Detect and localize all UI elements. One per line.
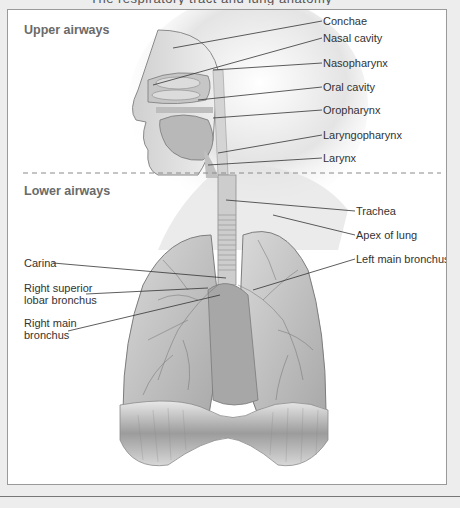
respiratory-illustration — [8, 10, 447, 485]
label-right-superior-lobar-bronchus-line1: Right superior — [24, 282, 92, 294]
label-larynx: Larynx — [323, 152, 356, 164]
label-nasal-cavity: Nasal cavity — [323, 32, 382, 44]
label-apex-of-lung: Apex of lung — [356, 229, 417, 241]
figure-panel: Upper airways Lower airways Conchae Nasa… — [7, 9, 447, 485]
label-right-main-bronchus-line2: bronchus — [24, 329, 69, 341]
label-laryngopharynx: Laryngopharynx — [323, 129, 402, 141]
label-oropharynx: Oropharynx — [323, 104, 380, 116]
label-right-superior-lobar-bronchus-line2: lobar bronchus — [24, 294, 97, 306]
trachea-illustration — [218, 175, 236, 285]
label-conchae: Conchae — [323, 15, 367, 27]
section-heading-lower-airways: Lower airways — [24, 184, 110, 198]
label-trachea: Trachea — [356, 205, 396, 217]
label-right-main-bronchus-line1: Right main — [24, 317, 77, 329]
section-heading-upper-airways: Upper airways — [24, 23, 109, 37]
label-left-main-bronchus: Left main bronchus — [356, 253, 447, 265]
bottom-rule — [0, 496, 460, 497]
label-oral-cavity: Oral cavity — [323, 81, 375, 93]
label-nasopharynx: Nasopharynx — [323, 57, 388, 69]
figure-title-partial: The respiratory tract and lung anatomy — [90, 0, 390, 5]
label-carina: Carina — [24, 257, 56, 269]
